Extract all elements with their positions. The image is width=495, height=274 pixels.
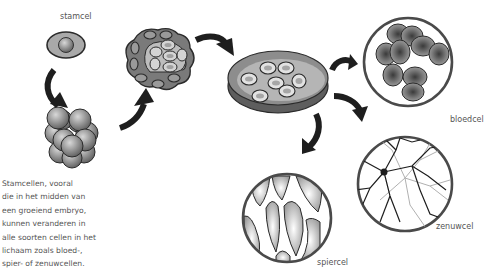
arrow-icon <box>334 96 368 122</box>
caption-line: die in het midden van <box>2 190 112 203</box>
caption-line: kunnen veranderen in <box>2 217 112 230</box>
caption-text: Stamcellen, vooral die in het midden van… <box>2 177 112 271</box>
blastocyst <box>126 29 194 90</box>
arrow-icon <box>332 54 358 70</box>
nerve-cell-label: zenuwcel <box>436 222 473 231</box>
blood-cell-label: bloedcel <box>450 115 484 124</box>
caption-line: Stamcellen, vooral <box>2 177 112 190</box>
morula-cluster <box>45 107 98 168</box>
stem-cell <box>47 32 85 58</box>
caption-line: een groeiend embryo, <box>2 204 112 217</box>
muscle-cell-label: spiercel <box>317 258 348 267</box>
arrow-icon <box>196 37 234 56</box>
stem-cell-label: stamcel <box>60 12 92 21</box>
blood-cells <box>364 18 452 106</box>
caption-line: spier- of zenuwcellen. <box>2 257 112 270</box>
caption-line: alle soorten cellen in het <box>2 231 112 244</box>
muscle-cells <box>243 174 331 264</box>
arrow-icon <box>302 114 319 154</box>
nerve-cell <box>356 137 452 231</box>
caption-line: lichaam zoals bloed-, <box>2 244 112 257</box>
culture-dish <box>228 51 328 113</box>
arrow-icon <box>120 88 154 128</box>
arrow-icon <box>48 70 68 108</box>
